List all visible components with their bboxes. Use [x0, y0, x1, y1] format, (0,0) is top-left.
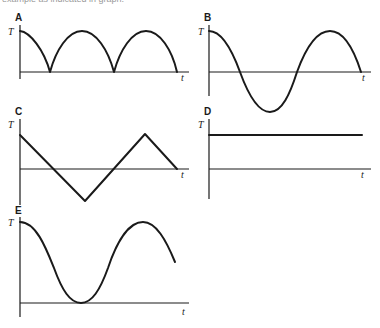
panel-c-x-label: t: [181, 169, 184, 180]
panel-d-y-label: T: [198, 119, 205, 130]
panel-b-y-label: T: [198, 26, 205, 37]
panel-e-curve: [20, 222, 175, 303]
panel-c: C T t: [8, 106, 189, 205]
panel-b: B T t: [198, 12, 371, 112]
panel-a-x-label: t: [181, 72, 184, 83]
panel-e-x-label: t: [182, 306, 185, 317]
panel-d-label: D: [204, 106, 211, 117]
panel-d: D T t: [198, 106, 371, 199]
panel-c-curve: [20, 134, 177, 201]
panel-e-label: E: [15, 205, 22, 216]
panel-b-x-label: t: [362, 72, 365, 83]
panel-e: E T t: [8, 205, 189, 317]
panel-c-label: C: [15, 106, 22, 117]
panel-d-x-label: t: [361, 169, 364, 180]
panel-a-label: A: [15, 12, 22, 23]
graph-figure: A T t B T t C T t D T t E T t: [0, 0, 380, 328]
panel-b-label: B: [204, 12, 211, 23]
panel-c-y-label: T: [8, 119, 15, 130]
panel-a: A T t: [8, 12, 189, 83]
panel-a-y-label: T: [8, 26, 15, 37]
panel-a-curve: [20, 31, 177, 72]
panel-e-y-label: T: [8, 217, 15, 228]
